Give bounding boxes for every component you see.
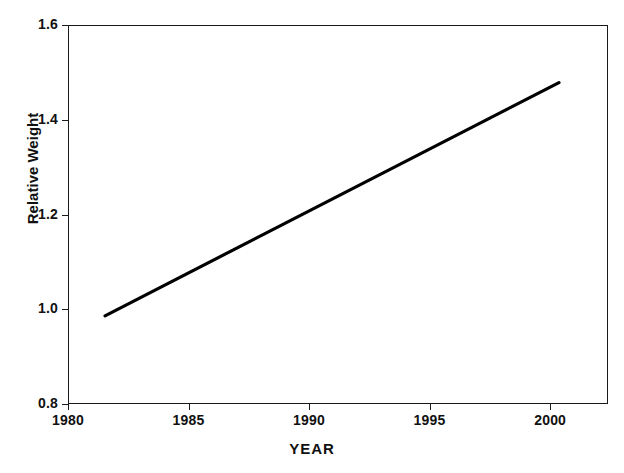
- x-axis-tick-label: 2000: [515, 412, 585, 428]
- x-axis-tick-mark: [309, 404, 310, 410]
- x-axis-tick-label: 1985: [154, 412, 224, 428]
- series-line-relative-weight: [105, 83, 559, 316]
- x-axis-tick-label: 1995: [395, 412, 465, 428]
- x-axis-tick-mark: [189, 404, 190, 410]
- plot-area: [68, 25, 608, 404]
- x-axis-tick-mark: [68, 404, 69, 410]
- x-axis-tick-mark: [550, 404, 551, 410]
- x-axis-tick-mark: [430, 404, 431, 410]
- x-axis-title: YEAR: [0, 440, 624, 457]
- y-axis-tick-label: 0.8: [4, 395, 58, 411]
- y-axis-tick-mark: [62, 120, 68, 121]
- y-axis-tick-label: 1.6: [4, 16, 58, 32]
- x-axis-tick-label: 1990: [274, 412, 344, 428]
- x-axis-tick-label: 1980: [33, 412, 103, 428]
- y-axis-tick-mark: [62, 25, 68, 26]
- y-axis-tick-mark: [62, 309, 68, 310]
- y-axis-tick-mark: [62, 215, 68, 216]
- line-series-svg: [69, 26, 607, 403]
- y-axis-tick-label: 1.0: [4, 300, 58, 316]
- chart-figure: 0.81.01.21.41.6 Relative Weight YEAR 198…: [0, 0, 624, 473]
- y-axis-title: Relative Weight: [24, 89, 41, 249]
